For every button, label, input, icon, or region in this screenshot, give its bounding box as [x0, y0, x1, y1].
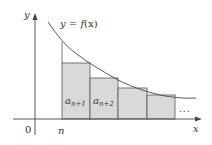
- x-axis-arrow-icon: [195, 117, 202, 122]
- y-axis-arrow-icon: [33, 13, 38, 20]
- curve-label: y = f(x): [59, 18, 98, 29]
- x-axis-label: x: [193, 123, 199, 134]
- n-label: n: [58, 125, 64, 136]
- y-axis-label: y: [23, 9, 30, 20]
- ellipsis: ...: [179, 104, 191, 114]
- integral-test-diagram: y x 0 n y = f(x) an+1 an+2 ...: [0, 0, 212, 145]
- rectangle-3: [118, 88, 147, 119]
- rectangle-4: [147, 95, 175, 119]
- origin-label: 0: [25, 124, 31, 135]
- rectangle-a-n-plus-1: [62, 63, 90, 119]
- rectangles: [62, 63, 175, 119]
